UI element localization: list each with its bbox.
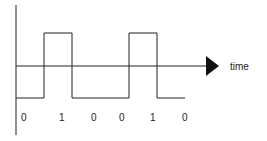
bit-label: 0 [91,112,97,123]
bit-label: 1 [150,112,156,123]
bit-label: 0 [182,112,188,123]
bit-label: 0 [21,112,27,123]
time-label: time [230,61,249,72]
bit-label: 1 [59,112,65,123]
bit-label: 0 [119,112,125,123]
waveform-diagram: time 0 1 0 0 1 0 [0,0,267,141]
arrowhead-icon [206,56,219,76]
